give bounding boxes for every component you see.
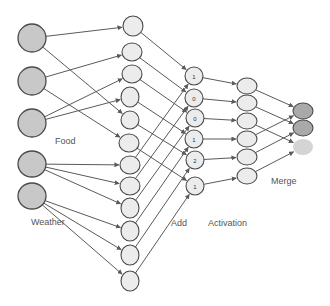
node-circle — [121, 198, 139, 218]
add-node-a4: 1 — [185, 130, 203, 148]
edge-h11-to-a5 — [135, 168, 189, 247]
node-circle — [122, 65, 142, 83]
input-node-food-1 — [18, 24, 46, 52]
edge-food-1-to-h1 — [46, 27, 122, 36]
add-node-a6: 1 — [186, 177, 204, 195]
node-circle — [123, 16, 143, 36]
node-circle — [120, 177, 140, 195]
edge-act3-to-m3 — [256, 125, 294, 143]
merge-label: Merge — [271, 176, 297, 186]
node-circle — [121, 87, 139, 107]
hidden-node-h12 — [121, 271, 139, 291]
node-circle — [237, 168, 257, 184]
add-node-a3: 0 — [186, 109, 204, 127]
activation-node-act6 — [237, 168, 257, 184]
node-circle — [119, 134, 139, 152]
edge-a2-to-act2 — [203, 99, 236, 102]
edge-a3-to-act3 — [204, 119, 236, 121]
merge-node-m3 — [293, 139, 313, 155]
node-circle — [122, 43, 142, 61]
add-node-a1: 1 — [185, 67, 203, 85]
edge-weather-1-to-h7 — [46, 164, 119, 165]
edge-act1-to-m1 — [256, 90, 294, 107]
add-node-a2: 0 — [185, 89, 203, 107]
node-circle — [293, 103, 313, 119]
edge-a6-to-act6 — [204, 178, 236, 184]
edge-h2-to-a2 — [140, 58, 186, 92]
activation-node-act5 — [237, 149, 257, 165]
edge-act4-to-m1 — [255, 116, 293, 135]
activation-label: Activation — [208, 218, 247, 228]
hidden-node-h11 — [121, 245, 139, 265]
edge-a5-to-act5 — [204, 158, 236, 160]
node-circle — [121, 221, 139, 241]
edge-act6-to-m3 — [255, 152, 293, 172]
hidden-node-h1 — [123, 16, 143, 36]
node-circle — [237, 131, 257, 147]
node-circle — [237, 95, 257, 111]
edge-weather-1-to-h9 — [45, 170, 121, 204]
node-circle — [121, 111, 139, 129]
hidden-node-h10 — [121, 221, 139, 241]
hidden-node-h9 — [121, 198, 139, 218]
merge-node-m2 — [293, 120, 313, 136]
edge-food-1-to-h5 — [43, 47, 123, 114]
hidden-node-h8 — [120, 177, 140, 195]
merge-node-m1 — [293, 103, 313, 119]
food-label: Food — [55, 136, 76, 146]
edge-act2-to-m2 — [256, 107, 294, 124]
add-node-a5: 2 — [186, 151, 204, 169]
edge-h9-to-a3 — [136, 126, 190, 200]
node-circle — [18, 151, 46, 177]
edge-h12-to-a6 — [135, 194, 189, 273]
nodes-layer: 100121 — [18, 16, 313, 291]
activation-node-act4 — [237, 131, 257, 147]
node-circle — [120, 156, 140, 174]
input-node-weather-1 — [18, 151, 46, 177]
neural-network-diagram: 100121 Food Weather Add Activation Merge — [0, 0, 330, 306]
node-circle — [237, 149, 257, 165]
input-node-food-3 — [18, 109, 46, 137]
hidden-node-h7 — [120, 156, 140, 174]
activation-node-act1 — [237, 78, 257, 94]
activation-node-act3 — [237, 113, 257, 129]
hidden-node-h4 — [121, 87, 139, 107]
edge-h10-to-a4 — [136, 147, 189, 223]
weather-label: Weather — [31, 217, 65, 227]
node-circle — [293, 120, 313, 136]
node-circle — [237, 113, 257, 129]
node-circle — [18, 67, 46, 95]
edge-a1-to-act1 — [203, 78, 236, 84]
hidden-node-h5 — [121, 111, 139, 129]
node-circle — [121, 271, 139, 291]
activation-node-act2 — [237, 95, 257, 111]
node-circle — [121, 245, 139, 265]
edge-h8-to-a2 — [135, 106, 188, 178]
hidden-node-h6 — [119, 134, 139, 152]
input-node-food-2 — [18, 67, 46, 95]
hidden-node-h2 — [122, 43, 142, 61]
node-circle — [18, 24, 46, 52]
edge-act5-to-m2 — [255, 133, 293, 153]
edge-food-3-to-h4 — [46, 100, 121, 120]
node-circle — [18, 183, 46, 209]
node-circle — [293, 139, 313, 155]
add-label: Add — [171, 218, 187, 228]
node-circle — [18, 109, 46, 137]
edge-weather-2-to-h12 — [42, 205, 122, 274]
hidden-node-h3 — [122, 65, 142, 83]
edges-layer — [42, 27, 293, 274]
network-graph: 100121 — [0, 0, 330, 306]
node-circle — [237, 78, 257, 94]
input-node-weather-2 — [18, 183, 46, 209]
edge-food-3-to-h3 — [45, 79, 123, 117]
edge-food-2-to-h6 — [44, 89, 120, 138]
